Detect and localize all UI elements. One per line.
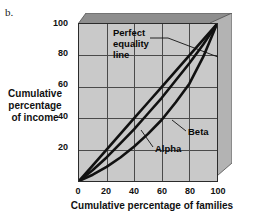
- y-tick-label-80: 80: [42, 48, 68, 58]
- annotation-beta: Beta: [188, 126, 209, 137]
- chart-3d-block: [70, 13, 232, 185]
- y-tick-label-20: 20: [42, 142, 68, 152]
- y-axis-title-line-3: of income: [2, 112, 68, 124]
- x-tick-label-20: 20: [94, 186, 118, 196]
- x-tick-label-80: 80: [178, 186, 202, 196]
- figure-label: b.: [5, 6, 13, 18]
- x-tick-label-100: 100: [206, 186, 230, 196]
- y-axis-title-line-2: percentage: [2, 100, 68, 112]
- y-axis-title: Cumulative percentage of income: [2, 88, 68, 124]
- y-axis-title-line-1: Cumulative: [2, 88, 68, 100]
- annotation-beta-text: Beta: [188, 126, 209, 137]
- annotation-alpha: Alpha: [155, 143, 181, 154]
- x-tick-label-60: 60: [150, 186, 174, 196]
- annotation-alpha-text: Alpha: [155, 143, 181, 154]
- annotation-perfect-equality-line-3: line: [113, 49, 149, 60]
- x-tick-label-40: 40: [122, 186, 146, 196]
- annotation-perfect-equality-line-1: Perfect: [113, 27, 149, 38]
- y-tick-label-100: 100: [42, 18, 68, 28]
- annotation-perfect-equality-line-2: equality: [113, 38, 149, 49]
- x-axis-title: Cumulative percentage of families: [52, 200, 252, 211]
- x-tick-label-0: 0: [66, 186, 90, 196]
- figure-panel: b.: [0, 0, 266, 216]
- annotation-perfect-equality: Perfect equality line: [113, 27, 149, 60]
